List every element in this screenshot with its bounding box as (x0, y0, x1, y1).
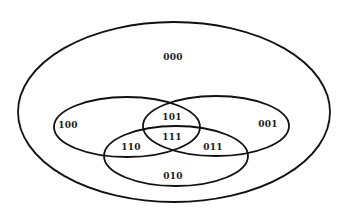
region-label-000: 000 (163, 52, 182, 62)
region-label-010: 010 (163, 171, 182, 181)
region-label-011: 011 (203, 142, 222, 152)
region-label-110: 110 (121, 142, 140, 152)
region-label-001: 001 (258, 119, 277, 129)
region-label-111: 111 (162, 132, 181, 142)
venn-svg (0, 0, 346, 215)
region-label-100: 100 (58, 120, 77, 130)
venn-diagram: 000 100 101 001 111 110 011 010 (0, 0, 346, 215)
region-label-101: 101 (162, 112, 181, 122)
